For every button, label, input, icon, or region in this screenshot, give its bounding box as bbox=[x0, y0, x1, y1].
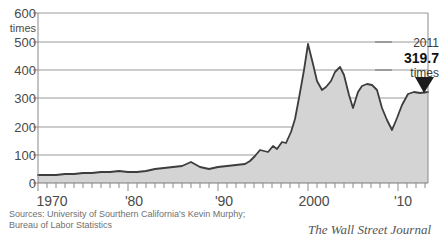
callout-unit-label: times bbox=[387, 66, 439, 80]
sources-note: Sources: University of Sourthern Califor… bbox=[9, 209, 269, 231]
publication-credit: The Wall Street Journal bbox=[308, 222, 431, 238]
callout-year-label: 2011 bbox=[387, 36, 439, 50]
callout-value-label: 319.7 bbox=[387, 50, 439, 66]
data-callout-2011: 2011 319.7 times bbox=[387, 36, 439, 80]
chart-footer: Sources: University of Sourthern Califor… bbox=[0, 205, 441, 243]
ceo-pay-ratio-chart: 600 times 500 400 300 200 100 0 1970 '80… bbox=[0, 0, 441, 243]
